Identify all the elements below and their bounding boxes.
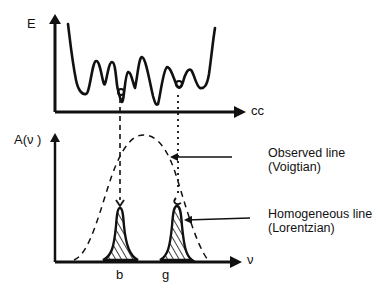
energy-axis-arrow-icon bbox=[49, 14, 61, 24]
minimum-b-marker bbox=[118, 89, 124, 95]
lorentzian-peak-g bbox=[160, 206, 192, 260]
absorbance-axis-arrow-icon bbox=[50, 133, 60, 142]
homogeneous-line-title: Homogeneous line bbox=[268, 207, 372, 221]
diagram: E cc A(ν ) ν b g Observed line (Voigtian… bbox=[0, 0, 388, 297]
frequency-axis-label: ν bbox=[247, 253, 254, 268]
frequency-axis-arrow-icon bbox=[230, 256, 242, 268]
observed-line-label: Observed line (Voigtian) bbox=[268, 146, 345, 175]
connector-b-arrow-icon bbox=[116, 200, 124, 206]
bottom-axes bbox=[50, 133, 242, 268]
lorentzian-peak-b bbox=[103, 208, 138, 260]
voigtian-envelope-curve bbox=[74, 135, 208, 260]
homogeneous-line-label: Homogeneous line (Lorentzian) bbox=[268, 207, 372, 236]
cc-axis-label: cc bbox=[251, 104, 264, 119]
absorbance-axis-label: A(ν ) bbox=[14, 133, 41, 148]
observed-line-subtitle: (Voigtian) bbox=[268, 160, 345, 174]
tick-label-b: b bbox=[116, 268, 123, 283]
homogeneous-line-pointer bbox=[186, 218, 250, 220]
energy-axis-label: E bbox=[27, 17, 36, 32]
energy-landscape-curve bbox=[68, 24, 215, 105]
homogeneous-line-subtitle: (Lorentzian) bbox=[268, 221, 372, 235]
connector-g-arrow-icon bbox=[174, 198, 181, 204]
tick-label-g: g bbox=[162, 268, 169, 283]
minimum-g-marker bbox=[176, 81, 182, 87]
cc-axis-arrow-icon bbox=[234, 106, 246, 118]
observed-line-title: Observed line bbox=[268, 146, 345, 160]
